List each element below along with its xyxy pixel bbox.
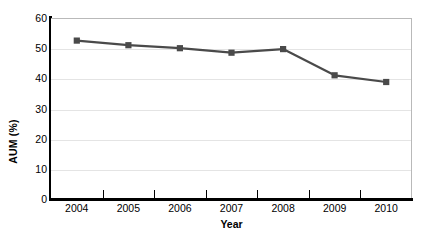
x-axis-tick-label: 2010 [361, 202, 411, 214]
y-axis-tick-label: 50 [21, 43, 47, 53]
x-axis-line [49, 198, 413, 201]
x-axis-title: Year [51, 218, 412, 230]
y-axis-tick-label: 40 [21, 73, 47, 83]
y-axis-tick-label: 0 [21, 194, 47, 204]
x-axis-tick [309, 190, 310, 198]
y-axis-title-text: AUM (%) [7, 119, 19, 164]
y-axis-tick-label: 10 [21, 164, 47, 174]
x-axis-tick-label: 2008 [258, 202, 308, 214]
x-axis-tick [103, 190, 104, 198]
x-axis-tick [206, 190, 207, 198]
line-chart: AUM (%) 0102030405060 200420052006200720… [0, 0, 424, 239]
plot-area [51, 18, 412, 199]
y-axis-tick-label: 30 [21, 104, 47, 114]
x-axis-tick-label: 2004 [52, 202, 102, 214]
gridline [51, 170, 411, 171]
gridline [51, 110, 411, 111]
x-axis-tick [257, 190, 258, 198]
x-axis-tick-label: 2006 [155, 202, 205, 214]
y-axis-tick-label: 60 [21, 13, 47, 23]
x-axis-tick-label: 2005 [103, 202, 153, 214]
x-axis-tick-label: 2007 [207, 202, 257, 214]
gridline [51, 49, 411, 50]
x-axis-tick [360, 190, 361, 198]
x-axis-tick [154, 190, 155, 198]
y-axis-tick-labels: 0102030405060 [20, 0, 47, 239]
y-axis-tick-label: 20 [21, 134, 47, 144]
gridline [51, 140, 411, 141]
x-axis-tick-label: 2009 [310, 202, 360, 214]
gridline [51, 79, 411, 80]
